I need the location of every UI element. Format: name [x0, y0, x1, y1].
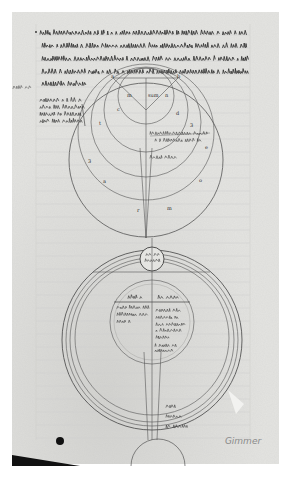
diagram-label: e — [205, 144, 208, 150]
vertex-label: b — [177, 73, 180, 79]
ink-blot — [56, 437, 64, 445]
parchment-grain — [12, 12, 279, 464]
diagram-label: 3 — [190, 122, 193, 128]
diagram-label: sum — [148, 92, 159, 98]
manuscript-scan: abmsumncd3t3eaorm Gimmer — [0, 0, 294, 477]
vertex-label: a — [111, 73, 114, 79]
diagram-label: t — [99, 120, 101, 126]
diagram-label: o — [199, 177, 202, 183]
manuscript-page: abmsumncd3t3eaorm Gimmer — [0, 0, 294, 477]
pencil-annotation: Gimmer — [225, 436, 263, 446]
folio — [12, 12, 279, 466]
diagram-label: 3 — [88, 158, 91, 164]
diagram-label: m — [167, 205, 172, 211]
paragraph-mark — [35, 31, 37, 33]
diagram-label: a — [103, 178, 106, 184]
diagram-label: m — [127, 92, 132, 98]
diagram-label: c — [117, 106, 120, 112]
